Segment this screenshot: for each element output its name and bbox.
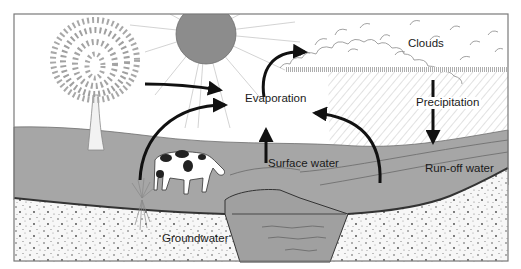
label-clouds: Clouds [408,38,444,50]
label-surface-water: Surface water [268,158,339,170]
label-runoff-water: Run-off water [425,163,494,175]
cloud-base [285,67,508,72]
label-evaporation: Evaporation [245,93,306,105]
water-cycle-diagram: Clouds Evaporation Precipitation Surface… [0,0,521,269]
label-groundwater: Groundwater [162,233,228,245]
label-precipitation: Precipitation [414,97,481,109]
